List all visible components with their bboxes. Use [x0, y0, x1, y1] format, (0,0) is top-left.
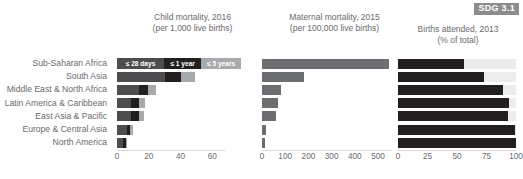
- bar: [398, 98, 509, 108]
- bar-segment: [139, 98, 145, 108]
- bar-segment: [181, 72, 195, 82]
- chart-row: [398, 136, 516, 149]
- bar-segment: [117, 111, 131, 121]
- axis-tick-label: 500: [371, 152, 385, 161]
- chart-row: [398, 97, 516, 110]
- panel-title-child-mortality: Child mortality, 2016 (per 1,000 live bi…: [120, 12, 265, 33]
- bar: [262, 125, 266, 135]
- axis-tick-label: 200: [302, 152, 316, 161]
- chart-board: SDG 3.1 Child mortality, 2016 (per 1,000…: [0, 0, 523, 179]
- region-label: Sub-Saharan Africa: [0, 57, 112, 70]
- region-label: Europe & Central Asia: [0, 123, 112, 136]
- stacked-bar: [117, 98, 145, 108]
- chart-row: [117, 70, 225, 83]
- panel-child-mortality: ≤ 28 days≤ 1 year≤ 5 years: [117, 57, 225, 149]
- chart-row: [262, 110, 392, 123]
- bar: [398, 125, 515, 135]
- bar-segment: [131, 111, 139, 121]
- chart-row: [262, 136, 392, 149]
- stacked-bar: [117, 125, 133, 135]
- region-label: East Asia & Pacific: [0, 110, 112, 123]
- axis-tick-label: 25: [423, 152, 432, 161]
- bar-segment: [117, 72, 165, 82]
- bar-segment: [165, 72, 181, 82]
- legend: ≤ 28 days≤ 1 year≤ 5 years: [117, 58, 241, 69]
- bar-segment: [117, 125, 127, 135]
- bar: [398, 111, 508, 121]
- legend-item: ≤ 28 days: [117, 58, 164, 69]
- axis-tick-label: 0: [260, 152, 265, 161]
- chart-row: [398, 57, 516, 70]
- bar: [262, 72, 304, 82]
- bar-segment: [130, 125, 132, 135]
- chart-row: [117, 83, 225, 96]
- axis-line: [117, 150, 225, 151]
- legend-item: ≤ 5 years: [201, 58, 241, 69]
- chart-row: [262, 57, 392, 70]
- axis-child-mortality: 0204060: [117, 150, 225, 166]
- chart-row: [117, 136, 225, 149]
- chart-row: [398, 123, 516, 136]
- bar-segment: [126, 138, 127, 148]
- stacked-bar: [117, 85, 156, 95]
- chart-row: [398, 110, 516, 123]
- chart-row: [117, 123, 225, 136]
- bar: [262, 85, 281, 95]
- bar: [262, 138, 265, 148]
- chart-row: [398, 83, 516, 96]
- chart-row: [262, 123, 392, 136]
- axis-line: [398, 150, 516, 151]
- axis-maternal-mortality: 0100200300400500: [262, 150, 392, 166]
- chart-row: [262, 70, 392, 83]
- sdg-badge: SDG 3.1: [474, 3, 519, 15]
- stacked-bar: [117, 111, 144, 121]
- chart-row: ≤ 28 days≤ 1 year≤ 5 years: [117, 57, 225, 70]
- chart-row: [117, 110, 225, 123]
- bar: [398, 138, 516, 148]
- region-label-column: Sub-Saharan AfricaSouth AsiaMiddle East …: [0, 57, 112, 149]
- region-label: South Asia: [0, 70, 112, 83]
- panel-title-births-attended: Births attended, 2013 (% of total): [396, 24, 520, 45]
- region-label: Middle East & North Africa: [0, 83, 112, 96]
- bar: [398, 59, 464, 69]
- axis-tick-label: 50: [452, 152, 461, 161]
- stacked-bar: [117, 138, 127, 148]
- panel-maternal-mortality: [262, 57, 392, 149]
- bar-segment: [139, 85, 148, 95]
- axis-tick-label: 100: [278, 152, 292, 161]
- bar: [262, 59, 389, 69]
- region-label: Latin America & Caribbean: [0, 97, 112, 110]
- axis-tick-label: 60: [208, 152, 217, 161]
- axis-tick-label: 40: [176, 152, 185, 161]
- axis-tick-label: 100: [509, 152, 523, 161]
- bar: [262, 98, 278, 108]
- bar: [398, 85, 503, 95]
- axis-births-attended: 0255075100: [398, 150, 516, 166]
- panel-title-maternal-mortality: Maternal mortality, 2015 (per 100,000 li…: [262, 12, 407, 33]
- bar: [398, 72, 484, 82]
- stacked-bar: [117, 72, 195, 82]
- axis-tick-label: 400: [348, 152, 362, 161]
- bar: [262, 111, 276, 121]
- bar-segment: [117, 85, 139, 95]
- chart-row: [262, 97, 392, 110]
- chart-row: [117, 97, 225, 110]
- chart-row: [262, 83, 392, 96]
- region-label: North America: [0, 136, 112, 149]
- axis-tick-label: 75: [482, 152, 491, 161]
- bar-segment: [148, 85, 156, 95]
- axis-tick-label: 0: [115, 152, 120, 161]
- chart-row: [398, 70, 516, 83]
- axis-tick-label: 20: [144, 152, 153, 161]
- axis-line: [262, 150, 392, 151]
- axis-tick-label: 0: [396, 152, 401, 161]
- bar-segment: [131, 98, 139, 108]
- bar-segment: [117, 98, 131, 108]
- legend-item: ≤ 1 year: [164, 58, 201, 69]
- panel-births-attended: [398, 57, 516, 149]
- bar-segment: [139, 111, 144, 121]
- axis-tick-label: 300: [325, 152, 339, 161]
